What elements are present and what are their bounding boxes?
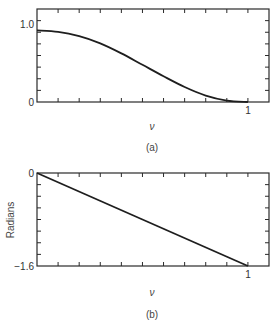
y-tick-label-0: 0 <box>28 97 34 108</box>
y-tick-label-min: −1.6 <box>14 261 34 272</box>
panel-b: 0 −1.6 1 ν (b) Radians <box>5 168 269 320</box>
ticks-a <box>37 9 269 102</box>
x-axis-label: ν <box>150 121 155 132</box>
x-axis-label: ν <box>150 287 155 298</box>
plot-frame-b <box>37 173 269 266</box>
y-tick-label-1: 1.0 <box>20 19 34 30</box>
x-tick-label-1: 1 <box>245 105 251 116</box>
plot-frame-a <box>37 9 269 102</box>
panel-caption: (a) <box>146 142 158 153</box>
y-axis-label: Radians <box>5 202 16 239</box>
ticks-b <box>37 173 269 266</box>
y-tick-label-0: 0 <box>28 168 34 179</box>
magnitude-curve <box>37 30 248 102</box>
phase-line <box>37 173 248 266</box>
panel-caption: (b) <box>146 309 158 320</box>
x-tick-label-1: 1 <box>245 269 251 280</box>
figure: 1.0 0 1 ν (a) 0 −1.6 1 ν (b) Radians <box>0 0 279 332</box>
panel-a: 1.0 0 1 ν (a) <box>20 9 269 153</box>
